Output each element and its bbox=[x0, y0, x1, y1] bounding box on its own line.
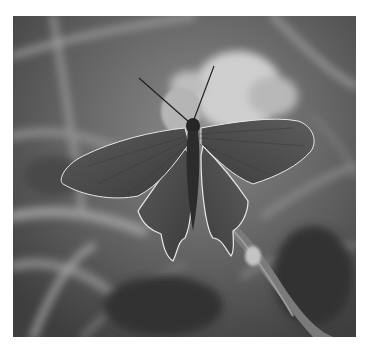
leaf-bud bbox=[245, 246, 261, 266]
butterfly-photo bbox=[13, 16, 356, 337]
photo-illustration bbox=[13, 16, 356, 337]
